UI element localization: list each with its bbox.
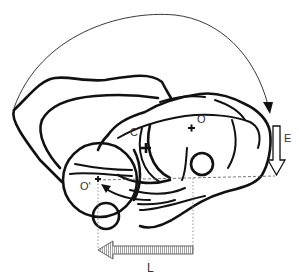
diagram-canvas: C O O' E L — [0, 0, 299, 279]
label-o: O — [197, 113, 206, 125]
label-o-prime: O' — [80, 180, 91, 192]
center-o-prime-cross-icon — [95, 176, 101, 182]
horizontal-arrow-l — [98, 241, 193, 259]
label-e: E — [284, 132, 291, 144]
center-o-cross-icon — [188, 125, 195, 132]
label-l: L — [147, 261, 154, 275]
guide-lines — [98, 176, 275, 250]
label-c: C — [130, 126, 138, 138]
rotation-arrowhead-icon — [263, 102, 273, 114]
moved-small-circle — [191, 153, 213, 175]
